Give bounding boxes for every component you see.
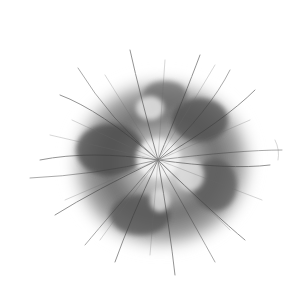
fur-ball-illustration bbox=[0, 0, 300, 304]
image-canvas bbox=[0, 0, 300, 304]
